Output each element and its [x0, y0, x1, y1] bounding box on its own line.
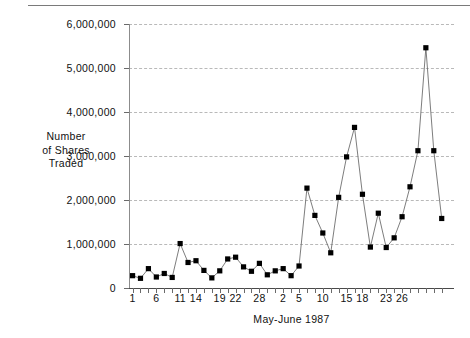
y-tick-label-2000000: 2,000,000 — [24, 194, 116, 206]
x-tick-label-14-3: 14 — [190, 292, 202, 304]
y-tick-label-3000000: 3,000,000 — [24, 150, 116, 162]
x-tick-label-2-7: 2 — [280, 292, 286, 304]
y-tick-label-1000000: 1,000,000 — [24, 238, 116, 250]
y-tick-label-0: 0 — [24, 282, 116, 294]
x-tick-label-6-1: 6 — [153, 292, 159, 304]
x-axis-tick-labels: 161114192228251015182326 — [129, 0, 469, 338]
x-tick-label-26-13: 26 — [396, 292, 408, 304]
x-tick-label-23-12: 23 — [380, 292, 392, 304]
y-tick-label-6000000: 6,000,000 — [24, 18, 116, 30]
x-tick-label-19-4: 19 — [214, 292, 226, 304]
y-tick-label-4000000: 4,000,000 — [24, 106, 116, 118]
y-axis-tick-labels: 01,000,0002,000,0003,000,0004,000,0005,0… — [24, 0, 116, 338]
chart-figure: Number of Shares Traded 01,000,0002,000,… — [0, 0, 470, 338]
x-tick-label-15-10: 15 — [340, 292, 352, 304]
x-tick-label-22-5: 22 — [229, 292, 241, 304]
x-tick-label-28-6: 28 — [253, 292, 265, 304]
x-tick-label-10-9: 10 — [317, 292, 329, 304]
x-axis-title: May-June 1987 — [129, 313, 454, 325]
x-tick-label-1-0: 1 — [129, 292, 135, 304]
x-tick-label-5-8: 5 — [296, 292, 302, 304]
y-tick-label-5000000: 5,000,000 — [24, 62, 116, 74]
x-tick-label-18-11: 18 — [356, 292, 368, 304]
x-tick-label-11-2: 11 — [174, 292, 186, 304]
